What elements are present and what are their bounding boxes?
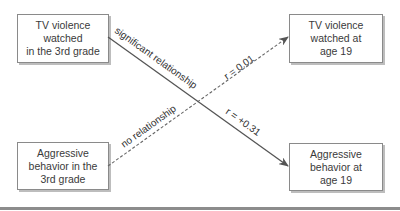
bottom-rule xyxy=(0,207,400,210)
edges-layer: significant relationship r = +0.31 r = 0… xyxy=(0,0,400,211)
edge-label-no-relationship: no relationship xyxy=(119,103,179,150)
edge-label-r-001: r = 0.01 xyxy=(222,53,257,82)
edge-label-significant: significant relationship xyxy=(113,25,200,91)
